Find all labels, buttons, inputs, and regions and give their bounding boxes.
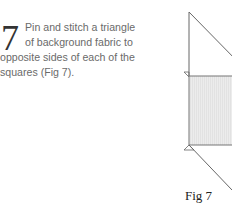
bottom-triangle [189, 145, 232, 190]
figure-diagram [0, 0, 232, 210]
figure-caption: Fig 7 [185, 188, 212, 204]
fabric-square [189, 76, 232, 145]
top-triangle [189, 12, 232, 76]
seam-marker-top [184, 72, 189, 77]
